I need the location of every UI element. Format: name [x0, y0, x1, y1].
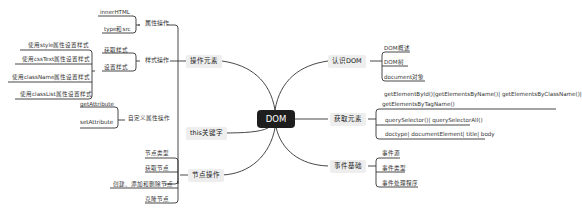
leaf-label: innerHTML — [100, 9, 130, 15]
leaf-label: 获取样式 — [104, 47, 128, 53]
leaf-dom-tree[interactable]: DOM树 — [384, 60, 404, 66]
leaf-set-style[interactable]: 设置样式 — [104, 65, 128, 71]
leaf-label: 创建、添加和删除节点 — [113, 181, 173, 187]
leaf-label: getAttribute — [80, 101, 114, 107]
leaf-label: 事件类型 — [382, 165, 406, 171]
leaf-create-add-remove-node[interactable]: 创建、添加和删除节点 — [113, 182, 173, 188]
leaf-type-src[interactable]: type和src — [104, 27, 131, 33]
sub-custom-attr-ops[interactable]: 自定义属性操作 — [128, 116, 170, 122]
branch-know-dom[interactable]: 认识DOM — [328, 55, 366, 68]
leaf-label: DOM概述 — [384, 45, 410, 51]
leaf-queryselector[interactable]: querySelector()| querySelectorAll() — [385, 118, 483, 124]
sub-label: 样式操作 — [145, 56, 169, 63]
sub-label: 自定义属性操作 — [128, 115, 170, 121]
leaf-csstext[interactable]: 使用cssText属性设置样式 — [22, 57, 90, 63]
leaf-classlist[interactable]: 使用classList属性设置样式 — [20, 92, 92, 98]
branch-label: 认识DOM — [332, 57, 362, 65]
leaf-get-style[interactable]: 获取样式 — [104, 48, 128, 54]
leaf-label: doctype| documentElement| title| body — [385, 131, 495, 137]
leaf-innerhtml[interactable]: innerHTML — [100, 10, 130, 16]
leaf-label: 获取节点 — [145, 165, 169, 171]
branch-label: 获取元素 — [334, 115, 362, 123]
branch-label: 节点操作 — [192, 171, 220, 179]
leaf-dom-overview[interactable]: DOM概述 — [384, 46, 410, 52]
leaf-classname[interactable]: 使用className属性设置样式 — [12, 75, 90, 81]
leaf-label: 节点类型 — [145, 150, 169, 156]
leaf-event-handler[interactable]: 事件处理程序 — [382, 181, 418, 187]
leaf-event-source[interactable]: 事件源 — [382, 151, 400, 157]
leaf-label: DOM树 — [384, 59, 404, 65]
leaf-node-type[interactable]: 节点类型 — [145, 151, 169, 157]
leaf-label: 使用classList属性设置样式 — [20, 91, 92, 97]
branch-node-ops[interactable]: 节点操作 — [188, 169, 224, 182]
leaf-label: 克隆节点 — [145, 196, 169, 202]
leaf-label: 使用className属性设置样式 — [12, 74, 90, 80]
leaf-event-type[interactable]: 事件类型 — [382, 166, 406, 172]
branch-label: 事件基础 — [334, 162, 362, 170]
leaf-label: getElementsByTagName() — [382, 101, 455, 107]
root-label: DOM — [266, 115, 287, 124]
leaf-label: type和src — [104, 26, 131, 32]
leaf-label: querySelector()| querySelectorAll() — [385, 117, 483, 123]
leaf-label: 使用cssText属性设置样式 — [22, 56, 90, 62]
leaf-document-object[interactable]: document对象 — [384, 75, 424, 81]
leaf-get-node[interactable]: 获取节点 — [145, 166, 169, 172]
sub-label: 属性操作 — [145, 19, 169, 26]
branch-label: 操作元素 — [190, 57, 218, 65]
branch-this-keyword[interactable]: this关键字 — [186, 127, 227, 140]
leaf-doctype-group[interactable]: doctype| documentElement| title| body — [385, 132, 495, 138]
leaf-getattribute[interactable]: getAttribute — [80, 102, 114, 108]
branch-operate-elements[interactable]: 操作元素 — [186, 55, 222, 68]
sub-attr-ops[interactable]: 属性操作 — [145, 20, 169, 26]
leaf-label: 使用style属性设置样式 — [28, 42, 89, 48]
leaf-getelementbyid-group[interactable]: getElementById()|getElementsByName()| ge… — [384, 92, 582, 98]
branch-get-elements[interactable]: 获取元素 — [330, 113, 366, 126]
leaf-setattribute[interactable]: setAttribute — [80, 120, 113, 126]
leaf-label: setAttribute — [80, 119, 113, 125]
leaf-label: document对象 — [384, 74, 424, 80]
leaf-getelementsbytagname[interactable]: getElementsByTagName() — [382, 102, 455, 108]
leaf-label: 事件处理程序 — [382, 180, 418, 186]
branch-event-basics[interactable]: 事件基础 — [330, 160, 366, 173]
leaf-label: 设置样式 — [104, 64, 128, 70]
leaf-label: getElementById()|getElementsByName()| ge… — [384, 91, 582, 97]
branch-label: this关键字 — [190, 129, 223, 137]
root-node-dom[interactable]: DOM — [257, 110, 295, 128]
leaf-clone-node[interactable]: 克隆节点 — [145, 197, 169, 203]
sub-style-ops[interactable]: 样式操作 — [145, 57, 169, 63]
leaf-style-attr[interactable]: 使用style属性设置样式 — [28, 43, 89, 49]
leaf-label: 事件源 — [382, 150, 400, 156]
